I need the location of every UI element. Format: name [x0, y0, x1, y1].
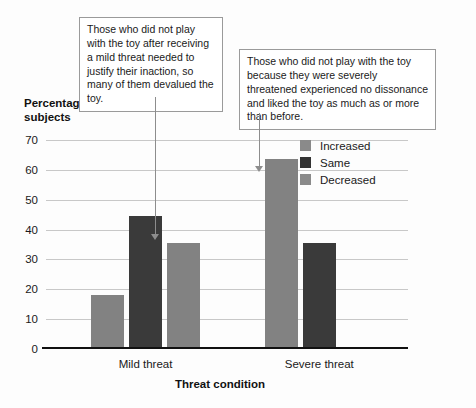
gridline-50: [46, 200, 408, 201]
x-axis-title: Threat condition: [0, 378, 440, 390]
legend: Increased Same Decreased: [300, 137, 376, 188]
gridline-20: [46, 289, 408, 290]
legend-swatch-increased-icon: [300, 140, 311, 151]
y-tick-label-50: 50: [25, 194, 38, 206]
y-tick-label-30: 30: [25, 253, 38, 265]
legend-swatch-same-icon: [300, 157, 311, 168]
category-label-mild-threat: Mild threat: [119, 358, 173, 370]
bar-chart-figure: Percentage of subjects 010203040506070 M…: [0, 0, 476, 408]
legend-label-same: Same: [320, 157, 350, 169]
y-tick-label-20: 20: [25, 283, 38, 295]
callout-mild-threat: Those who did not play with the toy afte…: [79, 17, 223, 112]
y-tick-label-10: 10: [25, 313, 38, 325]
y-tick-label-70: 70: [25, 134, 38, 146]
legend-label-increased: Increased: [320, 140, 371, 152]
bar-severe-threat-same: [303, 243, 336, 349]
y-tick-label-40: 40: [25, 224, 38, 236]
category-label-severe-threat: Severe threat: [285, 358, 354, 370]
leader-line-mild: [155, 97, 156, 235]
legend-item-decreased: Decreased: [300, 171, 376, 188]
arrowhead-severe-icon: [255, 166, 263, 172]
legend-item-increased: Increased: [300, 137, 376, 154]
legend-swatch-decreased-icon: [300, 174, 311, 185]
bar-severe-threat-increased: [265, 159, 298, 349]
callout-severe-threat: Those who did not play with the toy beca…: [239, 49, 436, 130]
bar-mild-threat-decreased: [167, 243, 200, 349]
y-tick-label-0: 0: [32, 343, 38, 355]
bar-mild-threat-increased: [91, 295, 124, 349]
gridline-30: [46, 259, 408, 260]
legend-label-decreased: Decreased: [320, 174, 376, 186]
arrowhead-mild-icon: [151, 234, 159, 240]
y-tick-label-60: 60: [25, 164, 38, 176]
leader-line-severe: [259, 113, 260, 167]
legend-item-same: Same: [300, 154, 376, 171]
gridline-40: [46, 230, 408, 231]
x-axis-line: [42, 347, 408, 349]
y-axis-title-line2: subjects: [24, 110, 164, 124]
